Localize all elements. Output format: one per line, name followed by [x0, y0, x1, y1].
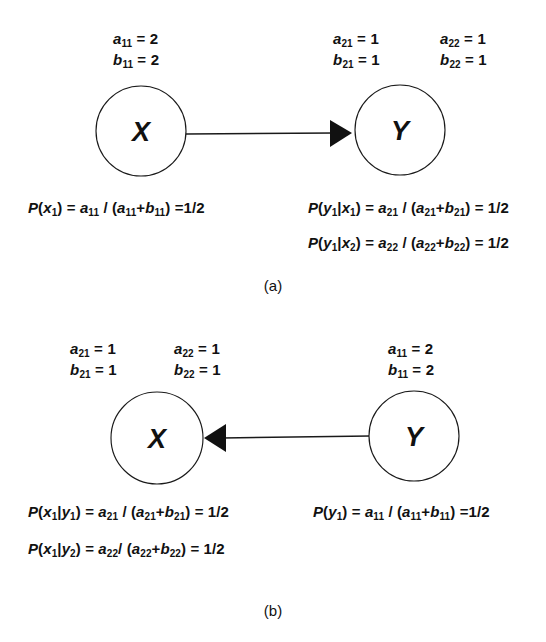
var-x: x — [342, 234, 350, 251]
var-b: b — [445, 199, 454, 216]
equals-sign: = — [365, 234, 374, 251]
subscript-22: 22 — [107, 548, 118, 559]
param-value: 2 — [151, 51, 160, 68]
param-symbol-b: b — [440, 51, 449, 68]
param-symbol-a: a — [174, 340, 183, 357]
node-x-b-circle — [111, 392, 203, 484]
param-line-a22: a22 = 1 — [440, 29, 487, 50]
subscript-22: 22 — [170, 548, 181, 559]
param-value: 1 — [108, 361, 117, 378]
var-y: y — [328, 503, 336, 520]
param-symbol-b: b — [70, 361, 79, 378]
plus-sign: + — [436, 234, 445, 251]
prob-symbol: P — [28, 503, 38, 520]
equals-sign: = — [465, 51, 474, 68]
param-value: 1 — [107, 340, 116, 357]
param-subscript-21: 21 — [79, 369, 90, 380]
prob-symbol: P — [313, 503, 323, 520]
paren-close: ) — [342, 503, 347, 520]
prob-symbol: P — [308, 199, 318, 216]
param-line-a11: a11 = 2 — [388, 339, 434, 360]
equals-sign: = — [199, 361, 208, 378]
var-a: a — [117, 199, 125, 216]
node-y-b-circle — [369, 391, 459, 481]
param-subscript-22: 22 — [183, 348, 194, 359]
equals-sign: = — [137, 51, 146, 68]
param-symbol-a: a — [113, 30, 122, 47]
param-line-b21: b21 = 1 — [70, 360, 117, 381]
param-symbol-a: a — [70, 340, 79, 357]
param-symbol-b: b — [388, 361, 397, 378]
node-x-a-circle — [96, 86, 186, 176]
param-block-y-b: a11 = 2 b11 = 2 — [388, 339, 434, 381]
var-a: a — [416, 199, 424, 216]
paren-close: ) — [181, 540, 186, 557]
param-value: 1 — [370, 30, 379, 47]
param-block-x-b-2: a22 = 1 b22 = 1 — [174, 339, 221, 381]
param-subscript-11: 11 — [122, 38, 133, 49]
equals-sign: = — [190, 540, 199, 557]
subscript-1: 1 — [350, 207, 356, 218]
subscript-21: 21 — [387, 207, 398, 218]
equals-sign: = — [85, 540, 94, 557]
result-value: 1/2 — [208, 503, 229, 520]
var-b: b — [165, 503, 174, 520]
equals-sign: = — [67, 199, 76, 216]
equals-sign: = — [198, 340, 207, 357]
paren-close: ) — [356, 199, 361, 216]
param-line-a11: a11 = 2 — [113, 29, 159, 50]
var-a: a — [136, 503, 144, 520]
subscript-1: 1 — [337, 511, 343, 522]
paren-close: ) — [76, 540, 81, 557]
param-symbol-b: b — [113, 51, 122, 68]
subscript-1: 1 — [52, 207, 58, 218]
param-block-y-a-2: a22 = 1 b22 = 1 — [440, 29, 487, 71]
param-subscript-21: 21 — [342, 59, 353, 70]
equation-px1y1-b: P(x1|y1) = a21 / (a21+b21) = 1/2 — [28, 503, 229, 520]
figure-canvas: X Y X Y a11 = 2 b11 = 2 a21 = 1 b21 — [0, 0, 546, 642]
paren-close: ) — [465, 234, 470, 251]
var-y: y — [62, 540, 70, 557]
equals-sign: = — [412, 340, 421, 357]
subscript-11: 11 — [411, 511, 422, 522]
paren-close: ) — [76, 503, 81, 520]
equals-sign: = — [357, 30, 366, 47]
caption-panel-a: (a) — [0, 277, 546, 294]
node-y-a-label: Y — [391, 116, 412, 146]
param-subscript-11: 11 — [397, 369, 408, 380]
param-value: 2 — [426, 361, 435, 378]
paren-close: ) — [165, 199, 170, 216]
result-value: 1/2 — [204, 540, 225, 557]
var-y: y — [62, 503, 70, 520]
var-a: a — [402, 503, 410, 520]
param-line-a21: a21 = 1 — [333, 29, 380, 50]
prob-symbol: P — [308, 234, 318, 251]
param-symbol-b: b — [333, 51, 342, 68]
subscript-11: 11 — [88, 207, 99, 218]
param-line-a22: a22 = 1 — [174, 339, 221, 360]
equals-sign: = — [464, 30, 473, 47]
param-subscript-21: 21 — [342, 38, 353, 49]
param-symbol-a: a — [440, 30, 449, 47]
subscript-22: 22 — [140, 548, 151, 559]
paren-close: ) — [185, 503, 190, 520]
subscript-11: 11 — [439, 511, 450, 522]
param-block-y-a-1: a21 = 1 b21 = 1 — [333, 29, 380, 71]
param-block-x-a: a11 = 2 b11 = 2 — [113, 29, 159, 71]
result-value: 1/2 — [488, 234, 509, 251]
param-line-b22: b22 = 1 — [174, 360, 221, 381]
var-a: a — [132, 540, 140, 557]
equals-sign: = — [95, 361, 104, 378]
var-b: b — [160, 540, 169, 557]
var-a: a — [378, 199, 386, 216]
plus-sign: + — [436, 199, 445, 216]
node-y-b-label: Y — [405, 422, 426, 452]
divide-slash: / — [103, 199, 107, 216]
subscript-1: 1 — [52, 548, 58, 559]
subscript-11: 11 — [126, 207, 137, 218]
result-value: 1/2 — [488, 199, 509, 216]
param-value: 2 — [425, 340, 434, 357]
param-symbol-a: a — [333, 30, 342, 47]
param-line-a21: a21 = 1 — [70, 339, 117, 360]
equals-sign: = — [352, 503, 361, 520]
